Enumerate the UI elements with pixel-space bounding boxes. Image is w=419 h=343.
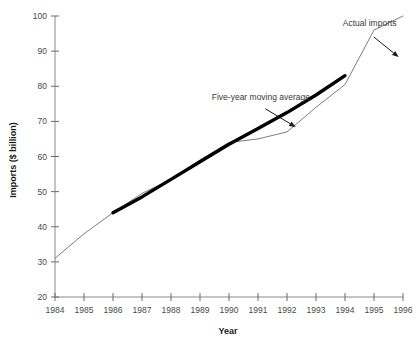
annotation-arrow-1 <box>374 37 394 53</box>
x-tick-label: 1990 <box>220 305 239 315</box>
x-axis-ticks: 1984198519861987198819891990199119921993… <box>46 293 413 315</box>
x-tick-label: 1994 <box>336 305 355 315</box>
annotation-label-1: Actual imports <box>343 18 397 28</box>
y-tick-label: 20 <box>38 292 48 302</box>
x-tick-label: 1988 <box>162 305 181 315</box>
annotation-arrowhead-2 <box>289 121 296 127</box>
chart-series-group <box>55 16 403 258</box>
y-tick-label: 50 <box>38 187 48 197</box>
y-tick-label: 90 <box>38 46 48 56</box>
y-tick-label: 40 <box>38 222 48 232</box>
chart-container: 2030405060708090100 19841985198619871988… <box>0 0 419 343</box>
y-tick-label: 80 <box>38 81 48 91</box>
x-tick-label: 1991 <box>249 305 268 315</box>
x-tick-label: 1995 <box>365 305 384 315</box>
y-tick-label: 30 <box>38 257 48 267</box>
y-tick-label: 100 <box>33 11 47 21</box>
x-tick-label: 1985 <box>75 305 94 315</box>
series-line-actual-imports <box>55 16 403 258</box>
y-tick-label: 70 <box>38 116 48 126</box>
x-tick-label: 1986 <box>104 305 123 315</box>
x-tick-label: 1992 <box>278 305 297 315</box>
y-tick-label: 60 <box>38 152 48 162</box>
x-tick-label: 1987 <box>133 305 152 315</box>
x-tick-label: 1989 <box>191 305 210 315</box>
chart-axes <box>55 16 403 297</box>
x-axis-title: Year <box>218 326 238 336</box>
x-tick-label: 1993 <box>307 305 326 315</box>
annotation-label-2: Five-year moving average <box>212 92 311 102</box>
x-tick-label: 1996 <box>394 305 413 315</box>
y-axis-title: Imports ($ billion) <box>8 122 18 198</box>
imports-line-chart: 2030405060708090100 19841985198619871988… <box>0 0 419 343</box>
chart-annotations: Actual importsFive-year moving average <box>212 18 399 127</box>
x-tick-label: 1984 <box>46 305 65 315</box>
